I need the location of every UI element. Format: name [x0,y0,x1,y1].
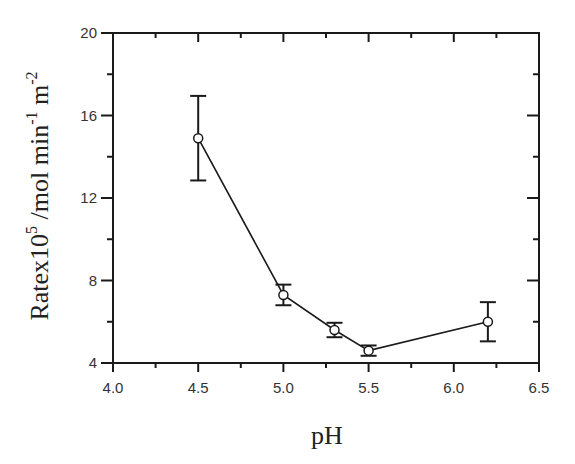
data-series [190,96,496,356]
x-tick-labels: 4.04.55.05.56.06.5 [103,379,550,396]
y-tick-label: 16 [80,107,97,124]
data-point-marker [483,317,492,326]
x-tick-label: 4.5 [188,379,209,396]
data-point-marker [330,326,339,335]
y-axis-title-sup: -1 [23,111,40,124]
x-tick-label: 6.0 [443,379,464,396]
series-line [198,138,488,350]
data-point-marker [194,134,203,143]
y-tick-label: 20 [80,24,97,41]
x-tick-label: 4.0 [103,379,124,396]
y-tick-label: 4 [89,354,97,371]
y-tick-label: 12 [80,189,97,206]
data-point-marker [279,290,288,299]
y-axis-title-part: /mol min [25,125,54,226]
y-axis-title-part: Ratex10 [25,234,54,321]
chart-canvas: 4.04.55.05.56.06.5 48121620 pH Ratex105 … [0,0,575,464]
y-axis-title: Ratex105 /mol min-1 m-2 [23,71,54,320]
x-tick-label: 6.5 [529,379,550,396]
plot-border [113,33,539,363]
y-axis-title-part: m [25,85,54,112]
y-axis-title-sup: 5 [23,226,40,234]
x-tick-label: 5.0 [273,379,294,396]
x-axis-title: pH [311,421,343,450]
axis-ticks [101,33,539,372]
plot-frame [113,33,539,363]
data-point-marker [364,346,373,355]
y-axis-title-sup: -2 [23,71,40,84]
y-tick-label: 8 [89,272,97,289]
y-tick-labels: 48121620 [80,24,97,371]
x-tick-label: 5.5 [358,379,379,396]
